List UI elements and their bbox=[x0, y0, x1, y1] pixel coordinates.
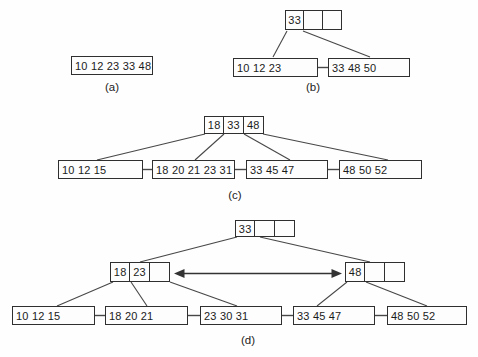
panel-d-leaf-node: 10 12 15 bbox=[12, 306, 95, 325]
panel-d-leaf-node: 33 45 47 bbox=[293, 306, 375, 325]
panel-d-leaf-node: 23 30 31 bbox=[200, 306, 282, 325]
panel-d-root-key-0: 33 bbox=[236, 221, 255, 236]
panel-b-leaf-node: 33 48 50 bbox=[328, 58, 410, 77]
panel-c-leaf-keys: 18 20 21 23 31 bbox=[156, 164, 232, 176]
panel-c-leaf-keys: 33 45 47 bbox=[250, 164, 294, 176]
panel-c-leaf-node: 10 12 15 bbox=[58, 160, 143, 179]
panel-d-caption: (d) bbox=[228, 334, 268, 346]
panel-b-root-key-2 bbox=[323, 11, 341, 29]
panel-d-leaf-node: 48 50 52 bbox=[387, 306, 467, 325]
panel-b-root-key-1 bbox=[304, 11, 322, 29]
panel-a-leaf-keys: 10 12 23 33 48 bbox=[75, 60, 151, 72]
panel-c-leaf-node: 48 50 52 bbox=[339, 160, 422, 179]
panel-d-leaf-keys: 33 45 47 bbox=[297, 310, 341, 322]
panel-d-internal-left-key-1: 23 bbox=[130, 263, 149, 281]
panel-b-leaf-keys: 10 12 23 bbox=[237, 62, 281, 74]
panel-c-leaf-node: 33 45 47 bbox=[246, 160, 328, 179]
panel-b-caption: (b) bbox=[293, 81, 333, 93]
panel-d-leaf-keys: 10 12 15 bbox=[16, 310, 60, 322]
panel-c-leaf-keys: 10 12 15 bbox=[62, 164, 106, 176]
panel-d-internal-right-key-1 bbox=[365, 263, 384, 281]
panel-d-internal-right-key-0: 48 bbox=[346, 263, 365, 281]
panel-c-root-key-1: 33 bbox=[224, 117, 243, 133]
panel-d-leaf-node: 18 20 21 bbox=[105, 306, 188, 325]
panel-c-root-key-2: 48 bbox=[244, 117, 263, 133]
panel-c-leaf-node: 18 20 21 23 31 bbox=[152, 160, 235, 179]
panel-b-root-key-0: 33 bbox=[286, 11, 304, 29]
panel-d-internal-right-key-2 bbox=[385, 263, 404, 281]
panel-c-root-node: 18 33 48 bbox=[204, 116, 264, 134]
panel-b-leaf-node: 10 12 23 bbox=[233, 58, 318, 77]
panel-d-root-key-2 bbox=[275, 221, 294, 236]
btree-insertion-figure: 10 12 23 33 48 (a) 33 10 12 23 33 48 50 … bbox=[0, 0, 478, 357]
panel-d-root-node: 33 bbox=[235, 220, 295, 237]
panel-d-leaf-keys: 18 20 21 bbox=[109, 310, 153, 322]
panel-d-internal-left-key-2 bbox=[150, 263, 169, 281]
panel-c-caption: (c) bbox=[215, 189, 255, 201]
panel-d-internal-left-node: 18 23 bbox=[110, 262, 170, 282]
panel-d-leaf-keys: 48 50 52 bbox=[391, 310, 435, 322]
panel-d-root-key-1 bbox=[255, 221, 274, 236]
panel-c-leaf-keys: 48 50 52 bbox=[343, 164, 387, 176]
panel-a-caption: (a) bbox=[92, 81, 132, 93]
panel-d-leaf-keys: 23 30 31 bbox=[204, 310, 248, 322]
sibling-double-arrow bbox=[174, 269, 342, 278]
panel-b-root-node: 33 bbox=[285, 10, 342, 30]
panel-d-internal-left-key-0: 18 bbox=[111, 263, 130, 281]
panel-b-leaf-keys: 33 48 50 bbox=[332, 62, 376, 74]
panel-d-internal-right-node: 48 bbox=[345, 262, 405, 282]
panel-a-leaf-node: 10 12 23 33 48 bbox=[71, 56, 153, 75]
panel-c-root-key-0: 18 bbox=[205, 117, 224, 133]
